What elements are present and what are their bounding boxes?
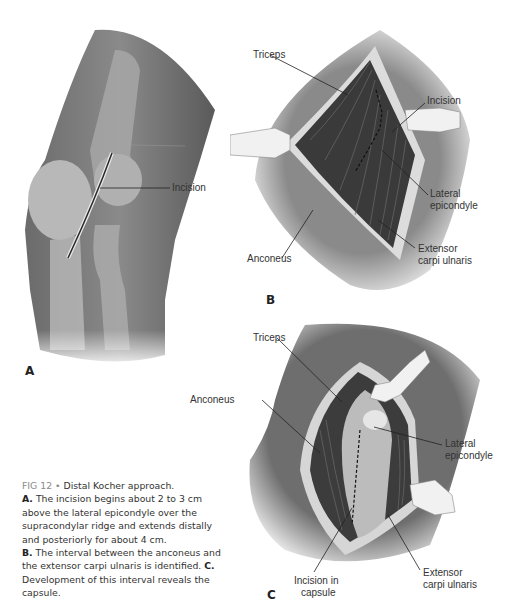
label-lateral-epicondyle-line1: Lateral xyxy=(430,188,461,200)
exposed-capsule-drawing xyxy=(230,320,519,610)
label-incision: Incision xyxy=(172,182,206,194)
caption-marker-a: A. xyxy=(22,493,33,504)
label-anconeus: Anconeus xyxy=(190,394,234,406)
label-triceps: Triceps xyxy=(253,49,285,61)
label-triceps: Triceps xyxy=(253,332,285,344)
label-ecu-line2: carpi ulnaris xyxy=(423,579,477,591)
panel-letter-a: A xyxy=(25,364,34,378)
label-ecu-line1: Extensor xyxy=(423,567,462,579)
figure-title: Distal Kocher approach. xyxy=(64,480,175,491)
label-ecu-line1: Extensor xyxy=(418,243,457,255)
panel-letter-b: B xyxy=(266,293,275,307)
caption-separator: • xyxy=(55,480,60,491)
panel-c-illustration: Triceps Anconeus Lateral epicondyle Inci… xyxy=(230,320,519,610)
label-incision: Incision xyxy=(427,95,461,107)
label-ecu-line2: carpi ulnaris xyxy=(418,255,472,267)
caption-marker-c: C. xyxy=(204,560,214,571)
caption-marker-b: B. xyxy=(22,547,33,558)
label-lateral-epicondyle-line2: epicondyle xyxy=(430,200,478,212)
label-lateral-epicondyle-line2: epicondyle xyxy=(445,450,493,462)
caption-text-a: The incision begins about 2 to 3 cm abov… xyxy=(22,493,212,544)
caption-text-b: The interval between the anconeus and th… xyxy=(22,547,221,571)
panel-a-illustration: Incision A xyxy=(0,0,230,400)
figure-caption: FIG 12 • Distal Kocher approach. A. The … xyxy=(22,479,227,600)
label-lateral-epicondyle-line1: Lateral xyxy=(445,438,476,450)
panel-b-illustration: Triceps Incision Lateral epicondyle Exte… xyxy=(230,0,519,310)
label-incision-in-capsule-line2: capsule xyxy=(301,587,335,599)
figure-number: FIG 12 xyxy=(22,480,52,491)
panel-letter-c: C xyxy=(267,588,276,602)
label-anconeus: Anconeus xyxy=(247,253,291,265)
label-incision-in-capsule-line1: Incision in xyxy=(294,575,338,587)
elbow-lateral-view-drawing xyxy=(0,0,230,400)
caption-text-c: Development of this interval reveals the… xyxy=(22,574,210,598)
